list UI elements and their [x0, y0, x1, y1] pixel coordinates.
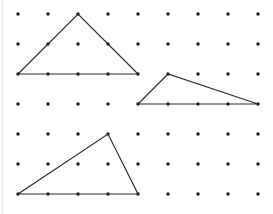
grid-dot: [196, 12, 199, 15]
triangles-layer: [18, 14, 258, 194]
grid-dot: [226, 132, 229, 135]
grid-dot: [256, 42, 259, 45]
grid-dot: [256, 72, 259, 75]
grid-dot: [196, 42, 199, 45]
grid-dot: [166, 12, 169, 15]
grid-dot: [256, 12, 259, 15]
grid-dot: [196, 192, 199, 195]
grid-dot: [226, 162, 229, 165]
grid-dot: [106, 102, 109, 105]
grid-dot: [76, 132, 79, 135]
grid-dot: [76, 162, 79, 165]
grid-dot: [256, 162, 259, 165]
geoboard-canvas: [0, 0, 273, 214]
grid-dot: [256, 192, 259, 195]
grid-dot: [46, 102, 49, 105]
grid-dot: [226, 12, 229, 15]
grid-dot: [196, 132, 199, 135]
grid-dot: [226, 192, 229, 195]
grid-dot: [136, 42, 139, 45]
grid-dot: [196, 162, 199, 165]
grid-dot: [196, 72, 199, 75]
grid-dot: [76, 102, 79, 105]
grid-dot: [136, 132, 139, 135]
grid-dot: [226, 72, 229, 75]
grid-dot: [166, 42, 169, 45]
grid-dot: [136, 12, 139, 15]
grid-dot: [166, 162, 169, 165]
grid-dot: [16, 42, 19, 45]
grid-dot: [46, 162, 49, 165]
grid-dot: [136, 162, 139, 165]
triangle-middle-right: [138, 74, 258, 104]
grid-dot: [46, 132, 49, 135]
grid-dot: [166, 132, 169, 135]
grid-dot: [106, 162, 109, 165]
grid-dot: [256, 132, 259, 135]
grid-dot: [106, 12, 109, 15]
grid-dot: [16, 162, 19, 165]
grid-dot: [76, 42, 79, 45]
grid-dot: [46, 12, 49, 15]
grid-dot: [16, 12, 19, 15]
grid-dot: [16, 132, 19, 135]
grid-dot: [166, 192, 169, 195]
geoboard-figure: [0, 0, 273, 214]
grid-dot: [226, 42, 229, 45]
grid-dot: [16, 102, 19, 105]
